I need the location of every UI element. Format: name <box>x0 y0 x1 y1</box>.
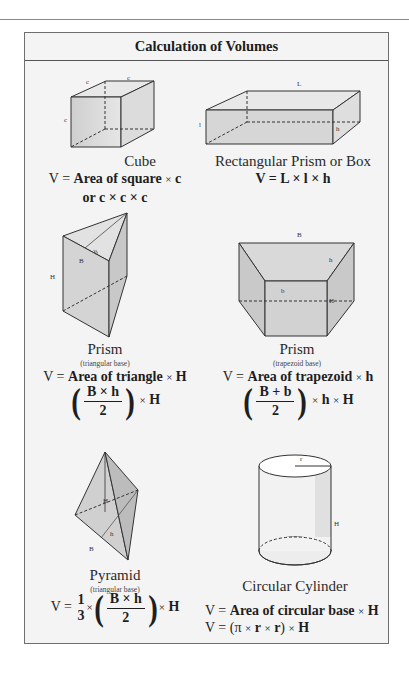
formula-term: H <box>176 369 187 384</box>
times-symbol: × <box>86 601 92 613</box>
tri-prism-subtitle: (triangular base) <box>45 359 165 368</box>
formula-term: H <box>168 599 179 614</box>
formula-prefix: V = <box>43 369 68 384</box>
formula-term: c <box>175 171 181 186</box>
cube-label-c-back: c <box>127 74 130 82</box>
right-paren: ) <box>125 383 135 419</box>
times-symbol: × <box>166 371 172 383</box>
formula-prefix: V = (π <box>205 620 245 635</box>
rect-label-L: L <box>297 80 301 88</box>
formula-term: h <box>365 369 373 384</box>
fraction: B × h2 <box>84 384 122 419</box>
pyramid-label-H: H <box>103 497 108 505</box>
triangular-prism-figure <box>59 211 134 341</box>
trap-label-H: H <box>329 297 334 305</box>
trap-label-b: b <box>281 287 285 295</box>
rect-prism-name: Rectangular Prism or Box <box>208 153 378 170</box>
formula-term: H <box>149 392 160 407</box>
denominator: 2 <box>99 402 106 419</box>
times-symbol: × <box>159 601 165 613</box>
formula-term: Area of triangle <box>68 369 163 384</box>
cylinder-formula-line1: V = Area of circular base × H <box>205 603 405 619</box>
rect-label-l: l <box>199 121 201 129</box>
tri-prism-fraction-formula: (B × h2) × H <box>25 383 205 419</box>
cylinder-label-r: r <box>300 455 302 463</box>
times-symbol: × <box>356 371 362 383</box>
formula-prefix: V = <box>51 599 76 614</box>
pyramid-name: Pyramid <box>60 567 170 584</box>
formula-term: H <box>343 392 354 407</box>
formula-term: r <box>255 620 261 635</box>
times-symbol: × <box>289 622 295 634</box>
formula-term: H <box>368 603 379 618</box>
numerator: B + b <box>256 384 294 402</box>
times-symbol: × <box>165 173 171 185</box>
fraction: B × h2 <box>107 591 145 626</box>
cube-label-c-side: c <box>64 116 67 124</box>
denominator: 3 <box>77 608 84 624</box>
numerator: B × h <box>84 384 122 402</box>
rect-prism-figure <box>205 89 365 149</box>
tri-prism-label-H: H <box>50 273 55 281</box>
left-paren: ( <box>244 383 254 419</box>
top-rule <box>0 19 409 20</box>
cylinder-formula-line2: V = (π × r × r) × H <box>205 620 405 636</box>
cylinder-name: Circular Cylinder <box>225 578 365 595</box>
trap-label-h: h <box>329 256 333 264</box>
pyramid-formula: V = 13×(B × h2)× H <box>25 590 205 626</box>
tri-prism-label-B: B <box>79 257 84 265</box>
cube-formula-line1: V = Area of square × c <box>25 171 205 187</box>
one-third-fraction: 13 <box>77 592 84 624</box>
formula-prefix: V = <box>205 603 230 618</box>
trapezoid-prism-figure <box>237 241 357 341</box>
trap-prism-name: Prism <box>237 341 357 358</box>
right-paren: ) <box>148 590 158 626</box>
title-bar: Calculation of Volumes <box>25 33 388 61</box>
numerator: B × h <box>107 591 145 609</box>
pyramid-label-B: B <box>89 545 94 553</box>
rect-prism-formula: V = L × l × h <box>208 171 378 187</box>
times-symbol: × <box>312 394 318 406</box>
cylinder-shape <box>257 453 337 568</box>
denominator: 2 <box>122 609 129 626</box>
cylinder-label-H: H <box>334 520 339 528</box>
cube-label-c-top: c <box>86 78 89 86</box>
times-symbol: × <box>245 622 251 634</box>
rect-label-h: h <box>336 125 340 133</box>
times-symbol: × <box>333 394 339 406</box>
denominator: 2 <box>272 402 279 419</box>
times-symbol: × <box>264 622 270 634</box>
left-paren: ( <box>94 590 104 626</box>
right-paren: ) <box>298 383 308 419</box>
fraction: B + b2 <box>256 384 294 419</box>
trap-prism-subtitle: (trapezoid base) <box>237 359 357 368</box>
trap-label-B: B <box>297 231 302 239</box>
cube-figure <box>70 77 160 152</box>
tri-prism-name: Prism <box>45 341 165 358</box>
times-symbol: × <box>140 394 146 406</box>
trap-prism-fraction-formula: (B + b2) × h × H <box>208 383 388 419</box>
formula-term: Area of circular base <box>230 603 355 618</box>
pyramid-label-h: h <box>110 530 114 538</box>
left-paren: ( <box>71 383 81 419</box>
times-symbol: × <box>358 605 364 617</box>
formula-term: H <box>298 620 309 635</box>
formula-prefix: V = <box>49 171 74 186</box>
pyramid-shape <box>73 450 148 565</box>
numerator: 1 <box>77 592 84 608</box>
cube-name: Cube <box>85 153 195 170</box>
chart-title: Calculation of Volumes <box>135 38 278 55</box>
formula-term: Area of square <box>74 171 162 186</box>
cube-formula-line2: or c × c × c <box>25 190 205 206</box>
formula-term: h <box>322 392 330 407</box>
